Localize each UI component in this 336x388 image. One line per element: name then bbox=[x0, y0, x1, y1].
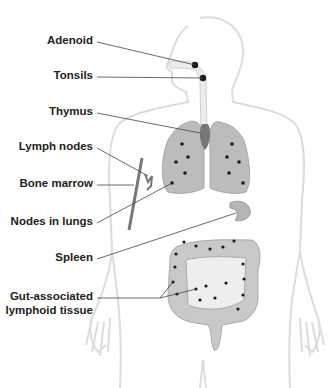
spleen-shape bbox=[230, 201, 250, 221]
body-illustration bbox=[0, 0, 336, 388]
label-nodes-in-lungs: Nodes in lungs bbox=[11, 214, 93, 228]
label-adenoid: Adenoid bbox=[47, 33, 93, 47]
lymph-node-cluster bbox=[145, 174, 152, 190]
intestines bbox=[168, 240, 260, 351]
body-outline bbox=[86, 17, 324, 388]
label-galt-line2: lymphoid tissue bbox=[5, 303, 93, 317]
label-lymph-nodes: Lymph nodes bbox=[19, 139, 93, 153]
lungs bbox=[162, 121, 249, 193]
label-tonsils: Tonsils bbox=[54, 68, 93, 82]
label-spleen: Spleen bbox=[55, 250, 93, 264]
label-thymus: Thymus bbox=[49, 104, 93, 118]
label-galt-line1: Gut-associated bbox=[10, 289, 93, 303]
lymphatic-diagram: Adenoid Tonsils Thymus Lymph nodes Bone … bbox=[0, 0, 336, 388]
label-bone-marrow: Bone marrow bbox=[20, 176, 94, 190]
